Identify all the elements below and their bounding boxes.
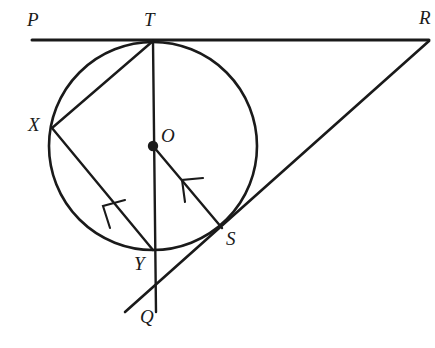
- point-label-P: P: [27, 10, 39, 29]
- geometry-figure: P T R X S Y Q O: [0, 0, 435, 348]
- chord-XY: [52, 128, 153, 250]
- radius-SO: [153, 146, 222, 228]
- geometry-canvas: [0, 0, 435, 348]
- point-label-T: T: [144, 10, 155, 29]
- point-label-R: R: [419, 8, 431, 27]
- point-label-S: S: [226, 229, 236, 248]
- point-label-O: O: [161, 126, 175, 145]
- diameter-line-TQ: [153, 41, 156, 312]
- point-label-X: X: [28, 115, 40, 134]
- arrowhead-toward-o-icon: [182, 178, 203, 202]
- center-point-dot: [148, 141, 158, 151]
- point-label-Q: Q: [140, 307, 154, 326]
- point-label-Y: Y: [134, 254, 145, 273]
- secant-line-QR: [125, 41, 429, 312]
